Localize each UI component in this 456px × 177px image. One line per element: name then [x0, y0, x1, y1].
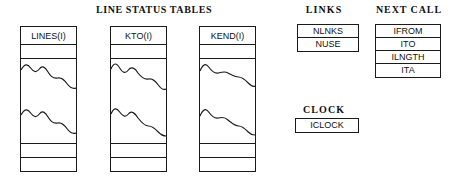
next-call-row-ita: ITA: [376, 64, 440, 77]
row-divider: [200, 143, 255, 144]
links-row-nuse: NUSE: [298, 38, 358, 51]
links-row-nlnks: NLNKS: [298, 25, 358, 38]
row-divider: [111, 157, 166, 158]
next-call-box: IFROM ITO ILNGTH ITA: [375, 24, 441, 78]
line-status-tables-title: LINE STATUS TABLES: [64, 4, 244, 15]
clock-row-iclock: ICLOCK: [296, 119, 358, 132]
wavy-fill-kend: [200, 58, 255, 143]
diagram-canvas: LINE STATUS TABLES LINKS NEXT CALL CLOCK…: [0, 0, 456, 177]
row-divider: [200, 157, 255, 158]
table-column-kend: KEND(I): [199, 26, 256, 172]
wavy-fill-kto: [111, 58, 166, 143]
column-header-kend: KEND(I): [200, 27, 255, 45]
row-divider: [21, 157, 76, 158]
next-call-title: NEXT CALL: [366, 4, 452, 15]
next-call-row-ito: ITO: [376, 38, 440, 51]
next-call-row-ilngth: ILNGTH: [376, 51, 440, 64]
next-call-row-ifrom: IFROM: [376, 25, 440, 38]
column-header-kto: KTO(I): [111, 27, 166, 45]
clock-box: ICLOCK: [295, 118, 359, 133]
links-title: LINKS: [288, 4, 360, 15]
clock-title: CLOCK: [288, 104, 360, 115]
links-box: NLNKS NUSE: [297, 24, 359, 52]
row-divider: [21, 143, 76, 144]
wavy-fill-lines: [21, 58, 76, 143]
table-column-kto: KTO(I): [110, 26, 167, 172]
table-column-lines: LINES(I): [20, 26, 77, 172]
row-divider: [111, 143, 166, 144]
column-header-lines: LINES(I): [21, 27, 76, 45]
